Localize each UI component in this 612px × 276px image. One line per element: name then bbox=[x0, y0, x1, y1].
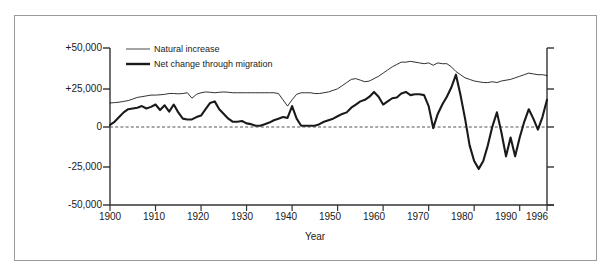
chart-plot-area bbox=[0, 0, 612, 276]
x-axis-tick-marks bbox=[110, 205, 547, 211]
chart-figure: +50,000 +25,000 0 -25,000 -50,000 1900 1… bbox=[0, 0, 612, 276]
series-line-net-migration bbox=[110, 75, 547, 169]
series-line-natural-increase bbox=[110, 61, 547, 106]
